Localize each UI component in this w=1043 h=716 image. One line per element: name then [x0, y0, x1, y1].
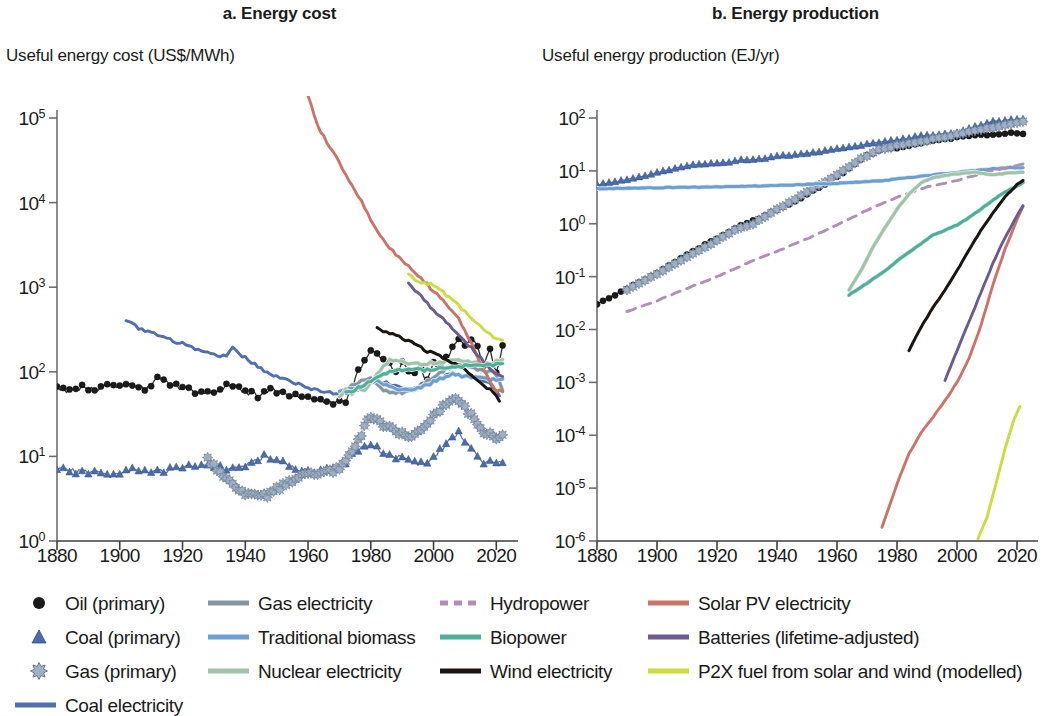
svg-text:1920: 1920 [162, 545, 202, 566]
svg-text:1980: 1980 [877, 545, 917, 566]
legend-item[interactable]: P2X fuel from solar and wind (modelled) [645, 661, 1022, 681]
svg-text:1980: 1980 [351, 545, 391, 566]
legend-item-label: Gas electricity [258, 594, 372, 613]
svg-text:103: 103 [18, 276, 45, 298]
legend-item-label: Coal electricity [65, 696, 183, 715]
svg-text:102: 102 [558, 107, 585, 129]
legend-item[interactable]: Oil (primary) [12, 593, 165, 613]
legend-item[interactable]: Biopower [437, 627, 566, 647]
svg-text:1900: 1900 [100, 545, 140, 566]
svg-text:2020: 2020 [997, 545, 1037, 566]
panel-energy-cost: a. Energy cost Useful energy cost (US$/M… [0, 0, 523, 575]
svg-text:10-4: 10-4 [555, 424, 586, 446]
legend-item-label: Gas (primary) [65, 662, 177, 681]
line-swatch-icon [205, 627, 251, 647]
svg-text:2000: 2000 [937, 545, 977, 566]
legend-item-label: Nuclear electricity [258, 662, 401, 681]
legend-item-label: Hydropower [490, 594, 589, 613]
figure-legend: Oil (primary)Coal (primary)Gas (primary)… [0, 575, 1043, 709]
svg-text:10-1: 10-1 [555, 266, 586, 288]
svg-text:1920: 1920 [697, 545, 737, 566]
svg-text:2000: 2000 [413, 545, 453, 566]
legend-item-label: Traditional biomass [258, 628, 415, 647]
legend-item-label: Biopower [490, 628, 566, 647]
line-swatch-icon [437, 627, 483, 647]
legend-item[interactable]: Wind electricity [437, 661, 612, 681]
legend-item-label: Batteries (lifetime-adjusted) [698, 628, 919, 647]
svg-text:100: 100 [558, 213, 585, 235]
panel-a-plot: 1001011021031041051880190019201940196019… [0, 0, 523, 575]
svg-text:1940: 1940 [225, 545, 265, 566]
svg-text:1880: 1880 [577, 545, 617, 566]
line-swatch-icon [437, 661, 483, 681]
svg-text:2020: 2020 [476, 545, 516, 566]
legend-item[interactable]: Traditional biomass [205, 627, 415, 647]
line-swatch-icon [437, 593, 483, 613]
coal-marker-icon [12, 627, 58, 647]
legend-item[interactable]: Gas electricity [205, 593, 372, 613]
svg-text:10-2: 10-2 [555, 319, 586, 341]
svg-text:10-3: 10-3 [555, 371, 586, 393]
legend-item-label: Wind electricity [490, 662, 612, 681]
panel-b-plot: 10-610-510-410-310-210-11001011021880190… [520, 0, 1043, 575]
legend-item[interactable]: Solar PV electricity [645, 593, 850, 613]
legend-item[interactable]: Hydropower [437, 593, 589, 613]
legend-item-label: Solar PV electricity [698, 594, 850, 613]
gas-marker-icon [12, 661, 58, 681]
legend-item[interactable]: Batteries (lifetime-adjusted) [645, 627, 919, 647]
svg-text:1960: 1960 [288, 545, 328, 566]
legend-item[interactable]: Gas (primary) [12, 661, 177, 681]
svg-text:102: 102 [18, 361, 45, 383]
legend-item-label: Coal (primary) [65, 628, 180, 647]
svg-text:1900: 1900 [637, 545, 677, 566]
legend-item-label: P2X fuel from solar and wind (modelled) [698, 662, 1022, 681]
svg-text:10-5: 10-5 [555, 477, 586, 499]
svg-text:101: 101 [18, 445, 45, 467]
svg-text:1960: 1960 [817, 545, 857, 566]
line-swatch-icon [12, 695, 58, 715]
legend-item[interactable]: Coal (primary) [12, 627, 180, 647]
svg-text:1940: 1940 [757, 545, 797, 566]
legend-item[interactable]: Coal electricity [12, 695, 183, 715]
line-swatch-icon [205, 593, 251, 613]
panel-energy-production: b. Energy production Useful energy produ… [520, 0, 1043, 575]
line-swatch-icon [645, 661, 691, 681]
svg-text:104: 104 [18, 192, 45, 214]
oil-marker-icon [12, 593, 58, 613]
svg-text:101: 101 [558, 160, 585, 182]
svg-text:105: 105 [18, 107, 45, 129]
svg-text:1880: 1880 [37, 545, 77, 566]
legend-item-label: Oil (primary) [65, 594, 165, 613]
line-swatch-icon [205, 661, 251, 681]
line-swatch-icon [645, 593, 691, 613]
legend-item[interactable]: Nuclear electricity [205, 661, 401, 681]
line-swatch-icon [645, 627, 691, 647]
